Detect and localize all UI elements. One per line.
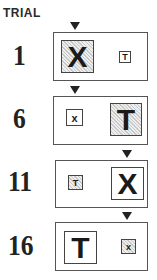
trial-panel-6: x T	[53, 96, 148, 145]
stimulus-large-t: T	[64, 231, 97, 264]
trial-panel-16: T x	[55, 222, 148, 271]
trial-panel-11: T X	[55, 160, 148, 208]
trial-number-1: 1	[13, 38, 26, 72]
stimulus-small-t: T	[68, 175, 83, 190]
stimulus-large-t: T	[110, 103, 142, 136]
stimulus-small-x: x	[121, 239, 136, 254]
stimulus-small-x: x	[66, 109, 83, 126]
trial-panel-1: X T	[53, 32, 148, 81]
arrow-down-icon	[122, 212, 132, 220]
trial-heading: TRIAL	[3, 6, 41, 20]
arrow-down-icon	[122, 150, 132, 158]
stimulus-large-x: X	[61, 40, 94, 73]
trial-number-6: 6	[13, 101, 26, 135]
arrow-down-icon	[70, 86, 80, 94]
trial-number-16: 16	[8, 228, 34, 262]
arrow-down-icon	[70, 22, 80, 30]
stimulus-large-x: X	[111, 167, 144, 200]
stimulus-small-t: T	[119, 51, 131, 63]
trial-number-11: 11	[8, 164, 32, 198]
